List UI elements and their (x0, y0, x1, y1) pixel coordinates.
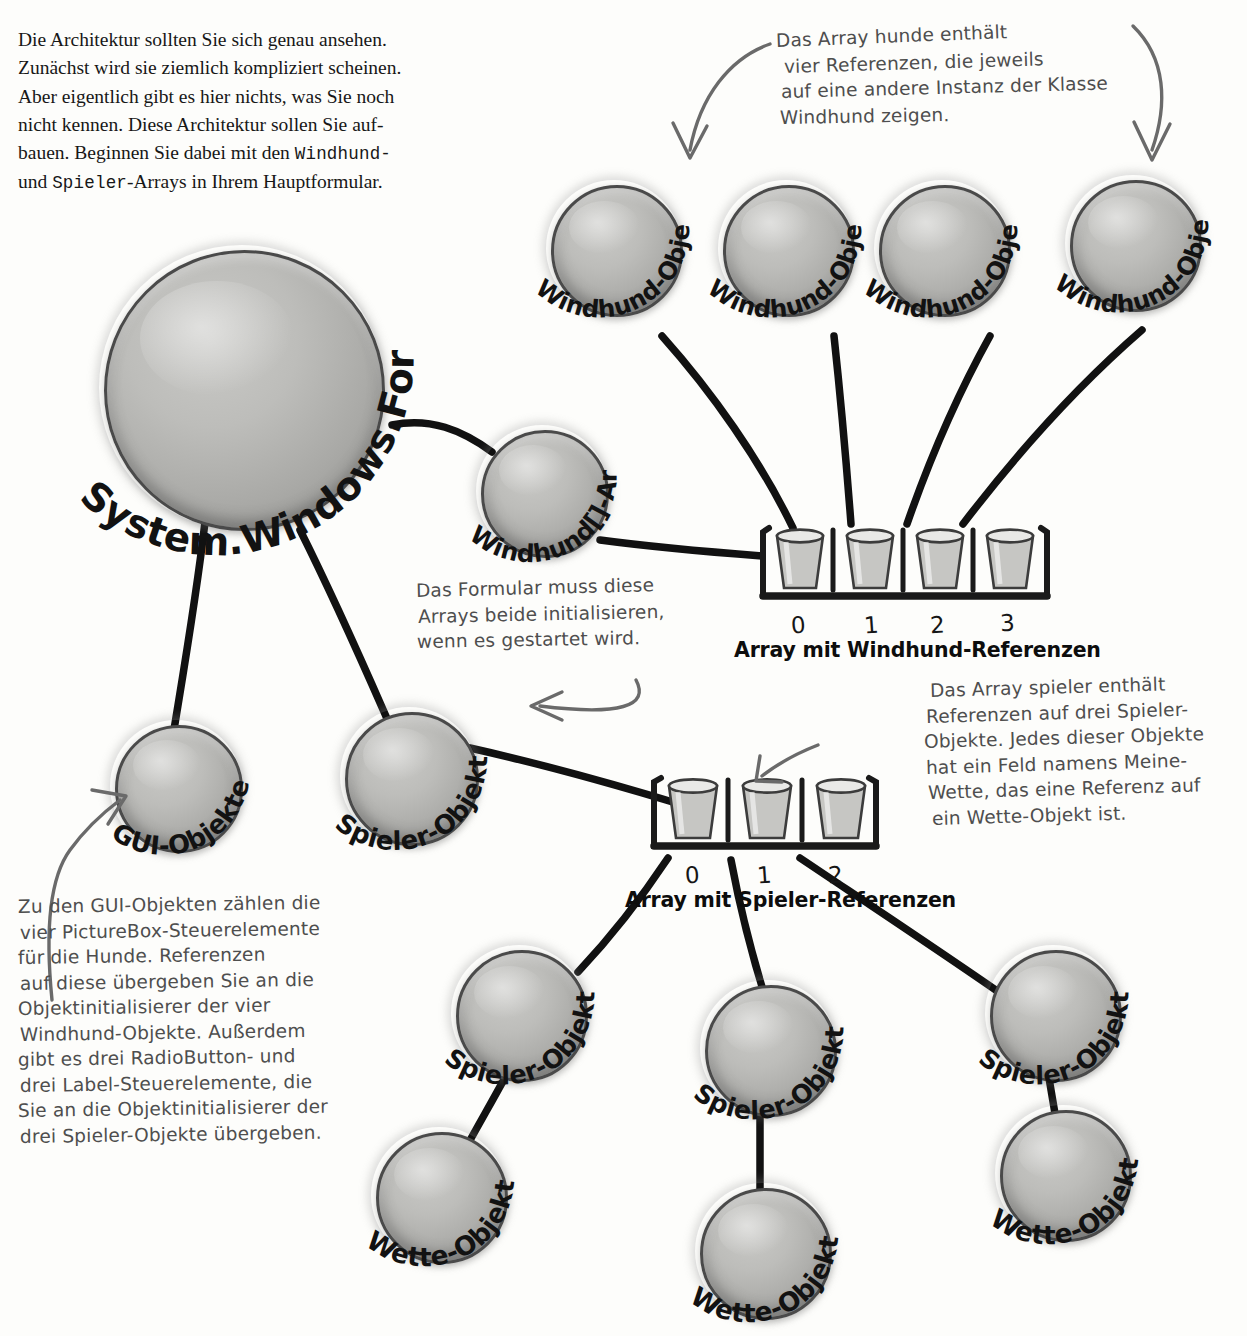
note-gui-line-3: für die Hunde. Referenzen (18, 941, 328, 971)
arrow-note-hunde-left-head (673, 123, 707, 158)
note-spieler-array: Das Array spieler enthält Referenzen auf… (930, 678, 1204, 831)
body-line-6-prefix: und (18, 171, 52, 192)
array-index-s-2: 2 (827, 862, 843, 889)
array-caption-windhund: Array mit Windhund-Referenzen (734, 638, 1101, 662)
note-gui-line-1: Zu den GUI-Objekten zählen die (18, 890, 328, 920)
note-formular-line-3: wenn es gestartet wird. (417, 625, 665, 655)
arrow-note-hunde-right-head (1134, 122, 1170, 160)
body-line-4: nicht kennen. Diese Architektur sollen S… (18, 111, 488, 139)
array-index-s-0: 0 (684, 862, 700, 889)
body-line-6: und Spieler-Arrays in Ihrem Hauptformula… (18, 168, 488, 197)
body-line-1: Die Architektur sollten Sie sich genau a… (18, 26, 488, 54)
note-gui-line-7: gibt es drei RadioButton- und (18, 1043, 328, 1073)
array-caption-spieler: Array mit Spieler-Referenzen (625, 888, 956, 912)
note-gui-line-10: drei Spieler-Objekte übergeben. (20, 1119, 328, 1149)
arrow-note-spieler (762, 745, 818, 776)
note-gui-objekte: Zu den GUI-Objekten zählen die vier Pict… (18, 894, 328, 1149)
body-paragraph: Die Architektur sollten Sie sich genau a… (18, 26, 488, 198)
array-index-w-2: 2 (929, 612, 945, 639)
array-index-w-3: 3 (999, 610, 1015, 637)
note-hunde-line-4: Windhund zeigen. (780, 99, 1108, 130)
note-gui-line-5: Objektinitialisierer der vier (18, 992, 328, 1022)
code-spieler: Spieler (52, 173, 127, 193)
body-line-3: Aber eigentlich gibt es hier nichts, was… (18, 83, 488, 111)
note-hunde-array: Das Array hunde enthält vier Referenzen,… (776, 28, 1108, 130)
note-gui-line-9: Sie an die Objektinitialisierer der (18, 1094, 328, 1124)
body-line-2: Zunächst wird sie ziemlich kompliziert s… (18, 54, 488, 82)
code-windhund: Windhund- (295, 144, 391, 164)
body-line-6-suffix: -Arrays in Ihrem Hauptformular. (127, 171, 383, 192)
array-index-w-0: 0 (790, 612, 806, 639)
array-index-s-1: 1 (756, 862, 772, 889)
body-line-5: bauen. Beginnen Sie dabei mit den Windhu… (18, 139, 488, 168)
array-index-w-1: 1 (863, 612, 879, 639)
body-line-5-text: bauen. Beginnen Sie dabei mit den (18, 142, 295, 163)
note-formular: Das Formular muss diese Arrays beide ini… (416, 578, 665, 655)
